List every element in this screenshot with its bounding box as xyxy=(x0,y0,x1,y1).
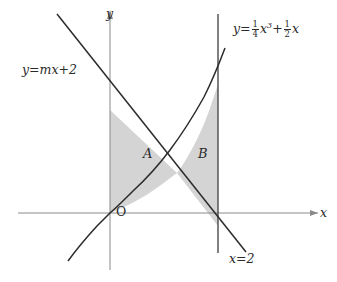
x-axis-arrow-icon xyxy=(310,210,318,216)
curve-eq-coef1-den: 4 xyxy=(252,30,259,39)
region-a-shape xyxy=(110,110,177,213)
y-axis-label: y xyxy=(106,8,113,21)
curve-equation-label: y=14x3+12x xyxy=(233,20,299,40)
axes-group xyxy=(18,10,318,270)
curve-eq-equals: = xyxy=(240,21,250,36)
curve-eq-lhs: y xyxy=(233,21,240,36)
curve-eq-coef2-den: 2 xyxy=(284,30,291,39)
x-axis-label: x xyxy=(320,207,327,220)
vertical-line-text: x=2 xyxy=(229,251,254,266)
curve-eq-coef2-num: 1 xyxy=(284,20,291,29)
curve-eq-term1-var: x xyxy=(260,21,267,36)
line-equation-label: y=mx+2 xyxy=(22,64,77,77)
curve-eq-coef1-num: 1 xyxy=(252,20,259,29)
curve-eq-plus: + xyxy=(272,21,282,36)
curve-eq-fraction-one: 14 xyxy=(252,20,259,40)
math-figure xyxy=(0,0,337,282)
curve-eq-fraction-two: 12 xyxy=(284,20,291,40)
line-equation-text: y=mx+2 xyxy=(22,62,77,77)
region-b-label: B xyxy=(198,147,208,160)
origin-label: O xyxy=(116,206,126,219)
region-a-label: A xyxy=(143,147,152,160)
vertical-line-label: x=2 xyxy=(229,253,254,266)
curve-eq-term2-var: x xyxy=(292,21,299,36)
